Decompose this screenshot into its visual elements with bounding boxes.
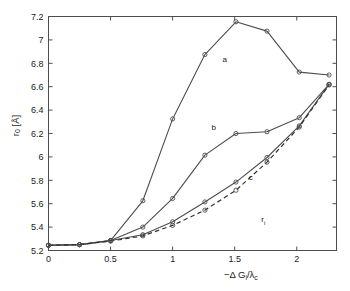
y-tick-label: 5.4 xyxy=(31,222,44,232)
curve-r_i xyxy=(49,85,330,245)
y-tick-label: 6.6 xyxy=(31,82,44,92)
marker-r_i xyxy=(234,188,238,192)
y-tick-label: 6.2 xyxy=(31,129,44,139)
curve-label-b: b xyxy=(211,123,216,132)
curve-c xyxy=(49,84,330,245)
curve-label-a: a xyxy=(223,55,228,64)
y-tick-label: 6.4 xyxy=(31,105,44,115)
data-markers xyxy=(46,20,331,248)
x-tick-label: 1.5 xyxy=(228,254,241,264)
axis-tick-labels: 00.511.525.25.45.65.866.26.46.66.877.2 xyxy=(31,12,299,264)
y-tick-label: 5.2 xyxy=(31,246,44,256)
figure-container: 00.511.525.25.45.65.866.26.46.66.877.2 a… xyxy=(0,0,350,291)
y-tick-label: 5.6 xyxy=(31,199,44,209)
chart-plot: 00.511.525.25.45.65.866.26.46.66.877.2 a… xyxy=(0,0,350,291)
curve-b xyxy=(49,84,330,245)
y-tick-label: 5.8 xyxy=(31,176,44,186)
y-tick-label: 6 xyxy=(38,152,43,162)
x-tick-label: 1 xyxy=(170,254,175,264)
y-tick-label: 6.8 xyxy=(31,59,44,69)
y-tick-label: 7 xyxy=(38,35,43,45)
y-tick-label: 7.2 xyxy=(31,12,44,22)
x-tick-label: 2 xyxy=(294,254,299,264)
x-axis-label: −Δ Gi/λc xyxy=(224,270,258,281)
x-tick-label: 0.5 xyxy=(104,254,117,264)
curve-label-ri: ri xyxy=(261,215,265,226)
data-curves xyxy=(49,22,330,245)
y-axis-label: r0 [Å] xyxy=(11,97,22,153)
x-tick-label: 0 xyxy=(46,254,51,264)
curve-label-c: c xyxy=(249,173,253,182)
